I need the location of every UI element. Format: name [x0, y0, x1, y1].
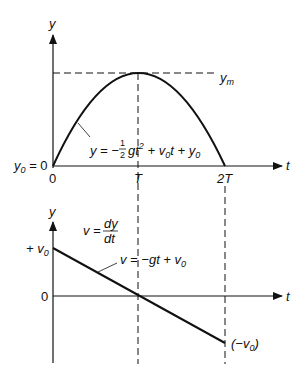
- equation-pointer: [78, 123, 90, 137]
- y0-label: y0 = 0: [13, 158, 48, 175]
- minus-v0-label: (−v0): [231, 336, 259, 353]
- lower-y-axis-label: y: [48, 204, 57, 219]
- zero-label: 0: [41, 289, 48, 304]
- upper-t-axis-label: t: [286, 158, 291, 173]
- lower-t-axis-label: t: [286, 289, 291, 304]
- dy-numerator: dy: [104, 216, 119, 231]
- origin-label: 0: [49, 171, 56, 186]
- position-plot: y t ym y = − 1 2 gt2 + v0t + y0 y0 = 0 0…: [13, 16, 291, 186]
- plus-v0-label: + v0: [26, 241, 49, 258]
- velocity-definition: v =: [83, 223, 101, 238]
- 2T-label: 2T: [216, 171, 233, 186]
- velocity-equation: v = −gt + v0: [120, 252, 186, 269]
- kinematics-diagram: y t ym y = − 1 2 gt2 + v0t + y0 y0 = 0 0…: [0, 0, 304, 388]
- velocity-pointer: [98, 263, 117, 272]
- upper-y-axis-label: y: [48, 16, 57, 31]
- dt-denominator: dt: [104, 231, 116, 246]
- position-equation-rest: gt2 + v0t + y0: [128, 141, 200, 160]
- velocity-plot: y t 0 + v0 (−v0) v = dy dt v = −gt + v0: [26, 204, 291, 363]
- position-equation: y = −: [89, 143, 119, 158]
- ym-label: ym: [219, 70, 235, 87]
